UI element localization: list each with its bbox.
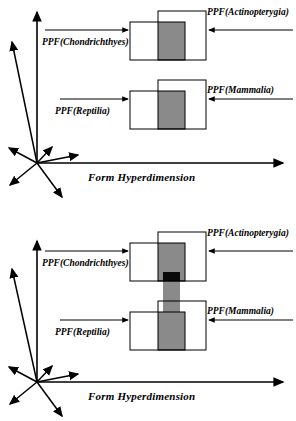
label-ppf-reptilia: PPF(Reptilia) — [55, 328, 110, 338]
label-ppf-chondrichthyes: PPF(Chondrichthyes) — [42, 259, 129, 269]
panel-bottom: PPF(Chondrichthyes) PPF(Actinopterygia) … — [0, 211, 296, 421]
hyperaxis-4 — [37, 163, 62, 197]
hyperaxis-1 — [12, 269, 37, 382]
hyperaxis-2 — [9, 148, 37, 163]
hyperaxis-1 — [12, 42, 37, 163]
panel-bottom-stage: PPF(Chondrichthyes) PPF(Actinopterygia) … — [0, 211, 296, 421]
hyperaxis-4 — [37, 382, 62, 416]
overlap-region-lower — [158, 91, 185, 129]
hyperaxis-3 — [10, 382, 37, 404]
axis-label-form-hyperdimension: Form Hyperdimension — [88, 391, 195, 402]
overlap-region-upper — [158, 22, 185, 60]
label-ppf-actinopterygia: PPF(Actinopterygia) — [207, 229, 289, 239]
black-block — [163, 272, 180, 281]
label-ppf-reptilia: PPF(Reptilia) — [55, 107, 110, 117]
hyperaxis-2 — [9, 367, 37, 382]
axis-label-form-hyperdimension: Form Hyperdimension — [88, 172, 195, 183]
overlap-region-lower — [158, 312, 185, 350]
panel-top-stage: PPF(Chondrichthyes) PPF(Actinopterygia) … — [0, 0, 296, 210]
label-ppf-chondrichthyes: PPF(Chondrichthyes) — [42, 38, 129, 48]
hyperaxis-3 — [10, 163, 37, 185]
label-ppf-actinopterygia: PPF(Actinopterygia) — [207, 8, 289, 18]
label-ppf-mammalia: PPF(Mammalia) — [207, 307, 274, 317]
panel-top: PPF(Chondrichthyes) PPF(Actinopterygia) … — [0, 0, 296, 210]
label-ppf-mammalia: PPF(Mammalia) — [207, 86, 274, 96]
